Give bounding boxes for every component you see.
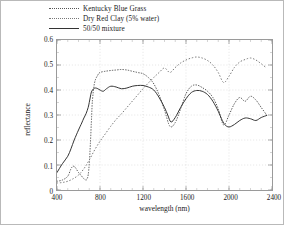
x-axis-title: wavelength (nm) (56, 204, 273, 213)
x-tick-label: 1200 (137, 190, 151, 202)
legend-line-sample-dotted-icon (49, 5, 79, 12)
legend-item-kentucky-blue-grass: Kentucky Blue Grass (49, 4, 249, 13)
spectral-reflectance-figure: Kentucky Blue Grass Dry Red Clay (5% wat… (0, 0, 284, 225)
y-tick-label: 0.3 (44, 112, 57, 120)
x-tick-label: 800 (95, 190, 106, 202)
y-tick-label: 0.1 (44, 163, 57, 171)
y-tick-label: 0.2 (44, 137, 57, 145)
x-tick-label: 400 (52, 190, 63, 202)
legend-line-sample-solid-icon (49, 25, 79, 32)
y-axis-title: reflectance (23, 80, 32, 160)
y-tick-label: 0.4 (44, 87, 57, 95)
curve-layer (57, 40, 272, 190)
legend-label: Kentucky Blue Grass (79, 5, 146, 13)
plot-area: 00.10.20.30.40.50.6 40080012001600200024… (56, 39, 273, 191)
legend-label: 50/50 mixture (79, 25, 125, 33)
y-tick-label: 0.5 (44, 61, 57, 69)
legend-label: Dry Red Clay (5% water) (79, 15, 159, 23)
x-tick-label: 1600 (180, 190, 194, 202)
legend-item-dry-red-clay: Dry Red Clay (5% water) (49, 14, 249, 23)
series-line-0 (57, 69, 267, 181)
series-line-2 (57, 85, 267, 172)
series-line-1 (57, 57, 267, 183)
legend-line-sample-dotted2-icon (49, 15, 79, 22)
chart-legend: Kentucky Blue Grass Dry Red Clay (5% wat… (49, 4, 249, 34)
y-tick-label: 0.6 (44, 36, 57, 44)
legend-item-fifty-fifty-mixture: 50/50 mixture (49, 24, 249, 33)
x-tick-label: 2000 (223, 190, 237, 202)
x-tick-label: 2400 (267, 190, 281, 202)
